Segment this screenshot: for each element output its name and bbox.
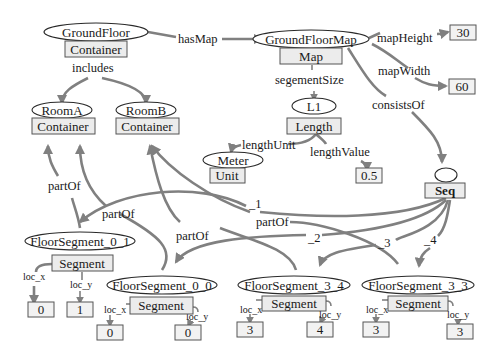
knowledge-graph-diagram: hasMap includes mapHeight mapWidth segem… (0, 0, 503, 364)
edge-part-of-fs00-room-a-2 (80, 146, 106, 206)
value-text: 3 (373, 322, 380, 337)
type-label: Container (70, 42, 122, 57)
type-label: Segment (395, 296, 441, 311)
edge-label-seq-3: _3 (377, 236, 391, 250)
edge-label-fs00-loc-x: loc_x (104, 304, 126, 315)
value-fs01-x[interactable]: 0 (28, 302, 54, 317)
edge-includes-room-a (62, 78, 88, 103)
edge-label-fs34-loc-x: loc_x (240, 304, 262, 315)
node-ground-floor-map[interactable]: GroundFloorMap Map (253, 30, 369, 64)
edge-seq-4-b (419, 248, 430, 266)
edge-length-unit-arrow (231, 145, 241, 152)
type-label: Unit (215, 168, 239, 183)
edge-fs34-loc-y (326, 301, 331, 306)
edge-consists-of-2 (412, 112, 442, 162)
type-label: Segment (59, 256, 105, 271)
type-label: Segment (138, 298, 184, 313)
edge-seq-3-b (320, 245, 376, 265)
node-meter[interactable]: Meter Unit (203, 152, 263, 183)
edge-has-map (148, 32, 176, 37)
node-room-b[interactable]: RoomB Container (116, 102, 179, 134)
type-label: Map (299, 49, 323, 64)
node-seq[interactable]: Seq (425, 168, 465, 198)
edge-label-consists-of: consistsOf (372, 98, 426, 112)
value-fs33-x[interactable]: 3 (363, 322, 389, 337)
value-text: 1 (77, 302, 84, 317)
edge-label-fs33-loc-x: loc_x (366, 304, 388, 315)
edge-label-part-of-2: partOf (102, 207, 135, 221)
value-fs34-y[interactable]: 4 (307, 322, 333, 337)
edge-label-fs01-loc-x: loc_x (23, 271, 45, 282)
node-label: FloorSegment_3_4 (244, 278, 344, 293)
edge-label-seq-1: _1 (248, 197, 262, 211)
type-label: Container (37, 119, 89, 134)
edge-label-map-height: mapHeight (377, 31, 433, 45)
edge-label-part-of-4: partOf (256, 215, 289, 229)
type-label: Segment (271, 296, 317, 311)
edge-label-segment-size: segementSize (275, 73, 344, 87)
edge-map-width-arrow (415, 78, 446, 86)
node-label: FloorSegment_3_3 (368, 278, 468, 293)
edge-label-has-map: hasMap (178, 32, 218, 46)
node-ellipse (435, 168, 457, 182)
node-label: FloorSegment_0_0 (112, 278, 212, 293)
value-text: 3 (457, 324, 464, 339)
edge-part-of-fs34-room-b-2 (150, 146, 180, 222)
node-label: GroundFloor (62, 25, 131, 40)
value-text: 0 (38, 302, 45, 317)
value-fs00-y[interactable]: 0 (175, 325, 201, 340)
edge-fs33-loc-y (448, 301, 453, 306)
edge-label-seq-4: _4 (423, 233, 437, 247)
value-fs33-y[interactable]: 3 (447, 324, 473, 339)
node-label: Meter (217, 153, 249, 168)
value-fs34-x[interactable]: 3 (237, 322, 263, 337)
value-text: 4 (317, 322, 324, 337)
node-label: RoomA (41, 103, 83, 118)
node-ground-floor[interactable]: GroundFloor Container (44, 23, 148, 57)
value-text: 0.5 (361, 168, 377, 183)
value-text: 30 (457, 25, 470, 40)
type-label: Container (121, 119, 173, 134)
type-label: Seq (435, 183, 456, 198)
edge-label-part-of-1: partOf (48, 179, 81, 193)
edge-part-of-fs01-room-a-2 (48, 146, 58, 176)
edge-label-length-unit: lengthUnit (242, 138, 296, 152)
edge-part-of-fs01-room-a (72, 198, 80, 228)
edge-label-seq-2: _2 (307, 231, 321, 245)
node-label: L1 (307, 99, 321, 114)
value-fs01-y[interactable]: 1 (67, 302, 93, 317)
value-map-width[interactable]: 60 (449, 79, 475, 94)
edge-includes-room-b (102, 78, 146, 103)
node-room-a[interactable]: RoomA Container (32, 102, 95, 134)
edge-map-height-arrow (437, 32, 448, 34)
value-text: 60 (456, 79, 469, 94)
edge-seq-1 (260, 198, 446, 216)
edge-label-length-value: lengthValue (310, 145, 370, 159)
node-label: RoomB (126, 103, 167, 118)
value-text: 3 (247, 322, 254, 337)
edge-length-value (316, 134, 326, 144)
value-map-height[interactable]: 30 (450, 25, 476, 40)
value-text: 0 (107, 325, 114, 340)
edge-label-includes: includes (72, 61, 114, 75)
value-fs00-x[interactable]: 0 (97, 325, 123, 340)
edge-label-part-of-3: partOf (176, 229, 209, 243)
node-label: FloorSegment_0_1 (30, 234, 130, 249)
edge-label-fs33-loc-y: loc_y (447, 309, 469, 320)
edge-label-fs01-loc-y: loc_y (70, 279, 92, 290)
type-label: Length (296, 119, 333, 134)
value-text: 0 (185, 325, 192, 340)
edge-label-map-width: mapWidth (378, 64, 431, 78)
node-l1[interactable]: L1 Length (287, 98, 341, 134)
node-label: GroundFloorMap (265, 32, 357, 47)
value-length-value[interactable]: 0.5 (356, 168, 382, 183)
